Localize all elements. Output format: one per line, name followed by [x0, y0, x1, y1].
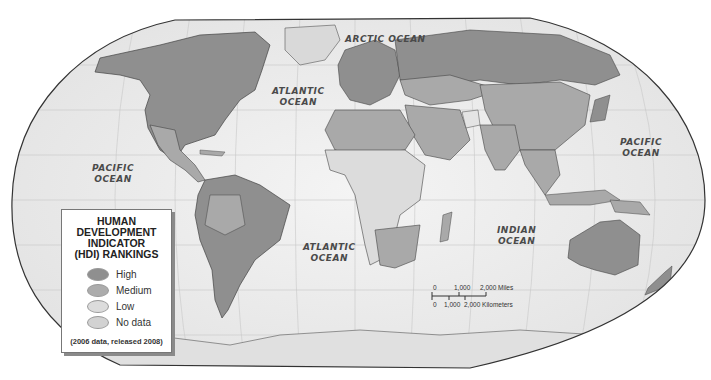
scale-miles-1000: 1,000	[454, 284, 470, 291]
arctic-ocean-label: ARCTIC OCEAN	[345, 34, 426, 45]
scale-miles-2000: 2,000 Miles	[480, 284, 513, 291]
atlantic-ocean-north-label: ATLANTICOCEAN	[272, 86, 325, 108]
scale-km-2000: 2,000 Kilometers	[464, 301, 513, 308]
pacific-ocean-west-label: PACIFICOCEAN	[92, 163, 134, 185]
legend-title: HUMAN DEVELOPMENT INDICATOR (HDI) RANKIN…	[62, 216, 171, 260]
hdi-legend: HUMAN DEVELOPMENT INDICATOR (HDI) RANKIN…	[61, 209, 172, 353]
legend-note: (2006 data, released 2008)	[62, 337, 171, 346]
no-data-swatch-icon	[87, 316, 109, 329]
pacific-ocean-east-label: PACIFICOCEAN	[620, 137, 662, 159]
indian-ocean-label: INDIANOCEAN	[497, 225, 536, 247]
legend-item-low: Low	[87, 298, 171, 314]
legend-item-medium: Medium	[87, 282, 171, 298]
scale-km-1000: 1,000	[444, 301, 460, 308]
scale-miles-0: 0	[433, 284, 437, 291]
high-swatch-icon	[87, 268, 109, 281]
atlantic-ocean-south-label: ATLANTICOCEAN	[303, 242, 356, 264]
legend-item-no-data: No data	[87, 314, 171, 330]
north-africa	[325, 110, 415, 155]
scale-km-0: 0	[433, 301, 437, 308]
medium-swatch-icon	[87, 284, 109, 297]
scale-line	[431, 292, 491, 300]
legend-item-high: High	[87, 266, 171, 282]
low-swatch-icon	[87, 300, 109, 313]
